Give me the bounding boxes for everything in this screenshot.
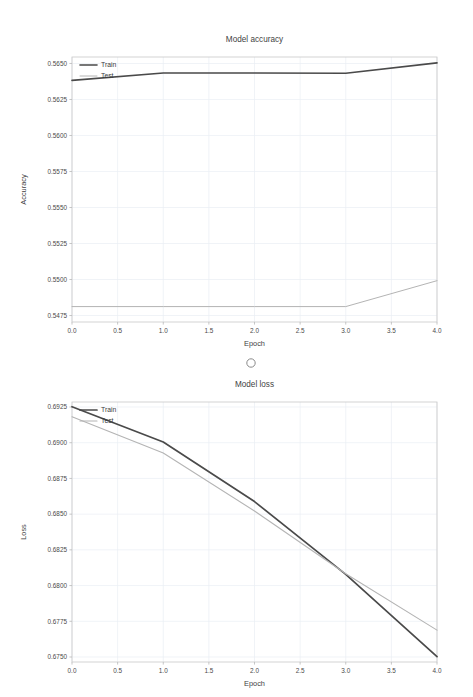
legend: TrainTest <box>80 61 116 79</box>
ytick-label-2: 0.5525 <box>47 240 67 247</box>
ytick-label-6: 0.5625 <box>47 96 67 103</box>
ytick-label-1: 0.6775 <box>47 618 67 625</box>
xtick-label-4: 2.0 <box>250 667 259 674</box>
loss-chart-figure: Model loss0.00.51.01.52.02.53.03.54.00.6… <box>0 374 473 697</box>
x-axis-title: Epoch <box>244 679 265 688</box>
xtick-label-0: 0.0 <box>68 667 77 674</box>
xtick-label-3: 1.5 <box>204 667 213 674</box>
xtick-label-6: 3.0 <box>341 327 350 334</box>
xtick-label-3: 1.5 <box>204 327 213 334</box>
ytick-label-0: 0.6750 <box>47 653 67 660</box>
ytick-label-5: 0.5600 <box>47 132 67 139</box>
ytick-label-7: 0.6925 <box>47 403 67 410</box>
xtick-label-0: 0.0 <box>68 327 77 334</box>
xtick-label-8: 4.0 <box>433 667 442 674</box>
legend-label-train: Train <box>101 61 116 68</box>
legend-label-train: Train <box>101 406 116 413</box>
xtick-label-2: 1.0 <box>159 667 168 674</box>
figure-separator <box>0 352 473 374</box>
accuracy-chart-figure: Model accuracy0.00.51.01.52.02.53.03.54.… <box>0 0 473 352</box>
gridlines <box>72 402 437 662</box>
axis-ticks: 0.00.51.01.52.02.53.03.54.00.67500.67750… <box>47 403 441 673</box>
y-axis-title: Accuracy <box>19 174 28 205</box>
accuracy-chart-svg: Model accuracy0.00.51.01.52.02.53.03.54.… <box>0 0 473 352</box>
ytick-label-4: 0.6850 <box>47 510 67 517</box>
ytick-label-7: 0.5650 <box>47 60 67 67</box>
ytick-label-3: 0.6825 <box>47 546 67 553</box>
xtick-label-4: 2.0 <box>250 327 259 334</box>
circle-marker-icon <box>247 359 255 367</box>
xtick-label-2: 1.0 <box>159 327 168 334</box>
loss-chart-svg: Model loss0.00.51.01.52.02.53.03.54.00.6… <box>0 374 473 697</box>
chart-title: Model accuracy <box>226 35 284 44</box>
x-axis-title: Epoch <box>244 339 265 348</box>
xtick-label-5: 2.5 <box>296 327 305 334</box>
xtick-label-6: 3.0 <box>341 667 350 674</box>
xtick-label-7: 3.5 <box>387 327 396 334</box>
ytick-label-4: 0.5575 <box>47 168 67 175</box>
ytick-label-1: 0.5500 <box>47 276 67 283</box>
xtick-label-5: 2.5 <box>296 667 305 674</box>
xtick-label-7: 3.5 <box>387 667 396 674</box>
ytick-label-2: 0.6800 <box>47 582 67 589</box>
xtick-label-1: 0.5 <box>113 327 122 334</box>
axis-ticks: 0.00.51.01.52.02.53.03.54.00.54750.55000… <box>47 60 441 334</box>
legend-label-test: Test <box>101 72 114 79</box>
y-axis-title: Loss <box>19 524 28 540</box>
chart-title: Model loss <box>235 380 274 389</box>
ytick-label-0: 0.5475 <box>47 312 67 319</box>
gridlines <box>72 57 437 322</box>
xtick-label-8: 4.0 <box>433 327 442 334</box>
ytick-label-6: 0.6900 <box>47 439 67 446</box>
xtick-label-1: 0.5 <box>113 667 122 674</box>
ytick-label-5: 0.6875 <box>47 475 67 482</box>
legend-label-test: Test <box>101 417 114 424</box>
ytick-label-3: 0.5550 <box>47 204 67 211</box>
